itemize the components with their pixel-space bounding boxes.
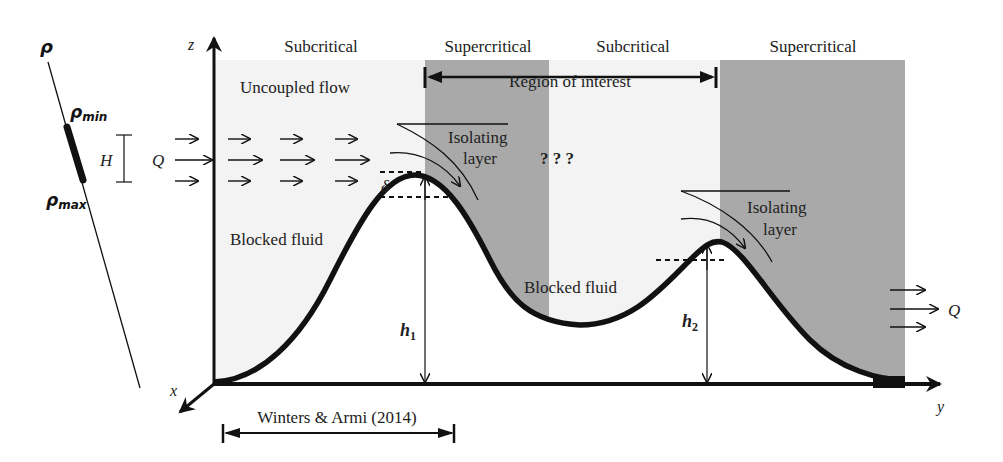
z-axis-label: z bbox=[187, 36, 195, 53]
flow-regime-diagram: Subcritical Supercritical Subcritical Su… bbox=[0, 0, 1003, 462]
reference-label: Winters & Armi (2014) bbox=[257, 408, 416, 427]
regime-shading bbox=[214, 60, 905, 390]
y-axis-label: y bbox=[935, 398, 945, 416]
density-range-bar bbox=[67, 127, 83, 180]
x-axis-label: x bbox=[169, 382, 177, 399]
supercritical-region-1 bbox=[425, 60, 549, 390]
isolating-layer-2-label-line2: layer bbox=[763, 220, 797, 239]
regime-label-4: Supercritical bbox=[770, 37, 857, 56]
outflow-label: Q bbox=[948, 301, 960, 320]
isolating-layer-1-label-line2: layer bbox=[463, 149, 497, 168]
isolating-layer-2-label-line1: Isolating bbox=[747, 198, 807, 217]
isolating-layer-1-label-line1: Isolating bbox=[448, 128, 508, 147]
uncoupled-flow-label: Uncoupled flow bbox=[240, 78, 351, 97]
reference-arrow-head-left bbox=[224, 428, 240, 438]
reference-arrow-head-right bbox=[438, 428, 454, 438]
region-of-interest-label: Region of interest bbox=[509, 72, 631, 91]
density-max-label: ρmax bbox=[46, 190, 88, 212]
density-min-label: ρmin bbox=[70, 102, 107, 124]
density-axis-label: ρ bbox=[40, 36, 53, 57]
regime-label-3: Subcritical bbox=[596, 37, 670, 56]
unknown-marks: ? ? ? bbox=[540, 149, 574, 168]
h1-label: h1 bbox=[400, 320, 416, 343]
depth-scale-label: H bbox=[99, 151, 114, 170]
regime-label-2: Supercritical bbox=[445, 37, 532, 56]
blocked-fluid-label-2: Blocked fluid bbox=[524, 278, 618, 297]
inflow-label: Q bbox=[152, 151, 164, 170]
blocked-fluid-label-1: Blocked fluid bbox=[230, 230, 324, 249]
h2-label: h2 bbox=[682, 311, 698, 334]
regime-label-1: Subcritical bbox=[284, 37, 358, 56]
subcritical-region-1 bbox=[214, 60, 425, 390]
subcritical-region-2 bbox=[549, 60, 720, 390]
x-axis bbox=[180, 384, 214, 412]
delta-label: δ bbox=[381, 177, 390, 196]
